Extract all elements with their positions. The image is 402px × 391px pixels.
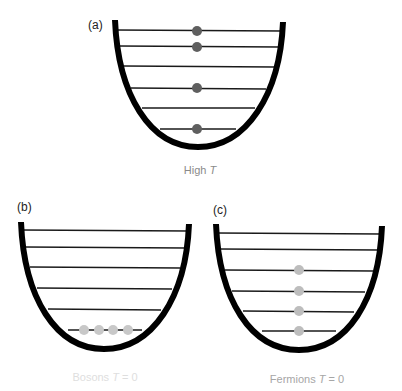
panel-c	[216, 224, 382, 350]
caption-b: Bosons T = 0	[60, 371, 150, 383]
particle	[294, 326, 304, 336]
caption-b-suffix: = 0	[119, 371, 138, 383]
particle	[79, 325, 89, 335]
energy-level	[48, 309, 161, 310]
energy-level	[30, 267, 180, 268]
energy-level	[37, 288, 172, 289]
energy-level	[22, 230, 188, 231]
energy-level	[25, 247, 185, 248]
particle	[94, 325, 104, 335]
particle	[294, 286, 304, 296]
energy-level	[220, 249, 378, 250]
particles-a	[192, 26, 202, 134]
particles-c	[294, 265, 304, 336]
particle	[294, 265, 304, 275]
caption-c-text: Fermions	[270, 373, 319, 385]
panel-b	[21, 222, 189, 349]
caption-a-var: T	[209, 164, 216, 176]
caption-b-text: Bosons	[72, 371, 112, 383]
energy-level	[124, 66, 274, 67]
particle	[192, 26, 202, 36]
particle	[108, 325, 118, 335]
figure-canvas	[0, 0, 402, 391]
panel-label-a: (a)	[88, 18, 103, 32]
panel-label-c: (c)	[213, 203, 227, 217]
caption-b-var: T	[112, 371, 119, 383]
panel-label-b: (b)	[17, 200, 32, 214]
caption-a-text: High	[184, 164, 210, 176]
particle	[192, 83, 202, 93]
caption-a: High T	[160, 164, 240, 176]
particle	[123, 325, 133, 335]
particle	[294, 306, 304, 316]
caption-c-suffix: = 0	[325, 373, 344, 385]
particle	[192, 42, 202, 52]
caption-c: Fermions T = 0	[262, 373, 352, 385]
panel-a	[115, 20, 283, 147]
particle	[192, 124, 202, 134]
energy-level	[217, 233, 381, 234]
